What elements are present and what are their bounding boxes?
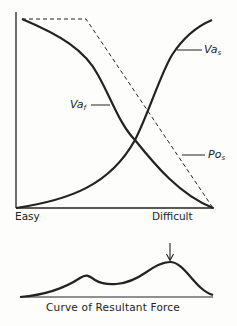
va-f-curve bbox=[22, 19, 213, 208]
va-s-curve bbox=[16, 20, 212, 208]
x-axis-label-easy: Easy bbox=[15, 210, 40, 222]
va-s-label: Vas bbox=[204, 43, 221, 57]
va-f-label: Vaf bbox=[70, 98, 86, 112]
diagram-canvas bbox=[0, 0, 237, 326]
x-axis-label-difficult: Difficult bbox=[152, 210, 193, 222]
resultant-force-curve bbox=[20, 262, 213, 297]
po-s-label: Pos bbox=[208, 148, 225, 162]
resultant-force-caption: Curve of Resultant Force bbox=[46, 301, 180, 313]
